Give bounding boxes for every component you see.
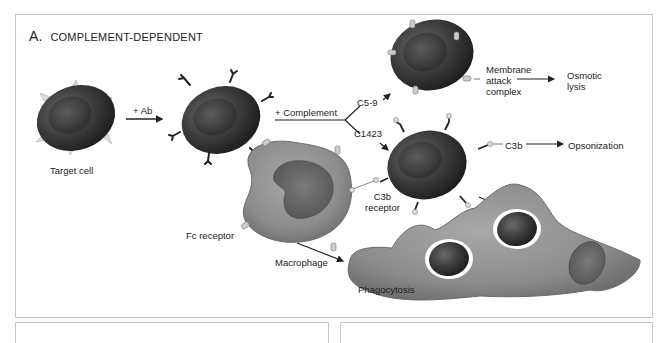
label-c3b: C3b <box>505 140 522 151</box>
label-c5-9: C5-9 <box>357 97 378 108</box>
mac-line-3: complex <box>486 86 531 97</box>
label-c3b-receptor: C3b receptor <box>365 191 400 213</box>
c3b-receptor-line-1: C3b <box>365 191 400 202</box>
c3b-receptor-line-2: receptor <box>365 202 400 213</box>
label-osmotic-lysis: Osmotic lysis <box>567 70 602 92</box>
mac-line-1: Membrane <box>486 64 531 75</box>
osmotic-line-2: lysis <box>567 81 602 92</box>
label-plus-complement: + Complement <box>275 107 337 118</box>
target-cell <box>27 74 124 162</box>
label-macrophage: Macrophage <box>275 257 328 268</box>
panel-title-text: COMPLEMENT-DEPENDENT <box>50 31 203 43</box>
mac-line-2: attack <box>486 75 531 86</box>
macrophage <box>241 138 352 251</box>
lysed-cell-mac <box>382 10 481 99</box>
label-plus-ab: + Ab <box>133 105 152 116</box>
osmotic-line-1: Osmotic <box>567 70 602 81</box>
label-target-cell: Target cell <box>50 165 93 176</box>
label-fc-receptor: Fc receptor <box>186 230 234 241</box>
panel-letter: A. <box>29 28 43 44</box>
panel-title: A. COMPLEMENT-DEPENDENT <box>29 28 203 44</box>
label-c1423: C1423 <box>354 128 382 139</box>
label-membrane-attack-complex: Membrane attack complex <box>486 64 531 97</box>
label-phagocytosis: Phagocytosis <box>358 284 415 295</box>
label-opsonization: Opsonization <box>568 140 623 151</box>
